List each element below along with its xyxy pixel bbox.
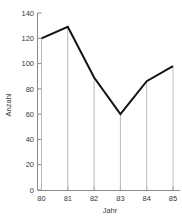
x-axis-ticks <box>42 187 174 191</box>
line-chart: 0 20 40 60 80 100 120 140 <box>0 0 182 224</box>
y-tick-label: 0 <box>30 186 34 195</box>
x-tick-label: 81 <box>64 194 72 203</box>
data-series-line <box>42 27 174 114</box>
y-tick-label: 100 <box>21 59 34 68</box>
x-axis-title: Jahr <box>103 206 118 215</box>
stem-lines <box>42 27 174 190</box>
y-axis-ticks <box>38 13 42 190</box>
y-tick-label: 140 <box>21 9 34 18</box>
chart-container: 0 20 40 60 80 100 120 140 <box>0 0 182 224</box>
x-tick-label: 84 <box>143 194 151 203</box>
x-tick-label: 85 <box>169 194 177 203</box>
y-tick-label: 20 <box>26 160 34 169</box>
y-tick-label: 40 <box>26 135 34 144</box>
x-tick-label: 82 <box>90 194 98 203</box>
y-tick-label: 120 <box>21 34 34 43</box>
x-tick-label: 83 <box>116 194 124 203</box>
x-axis-tick-labels: 80 81 82 83 84 85 <box>37 194 177 203</box>
y-axis-title: Anzahl <box>4 93 13 116</box>
y-tick-label: 60 <box>26 110 34 119</box>
y-axis-tick-labels: 0 20 40 60 80 100 120 140 <box>21 9 34 195</box>
y-tick-label: 80 <box>26 85 34 94</box>
x-tick-label: 80 <box>37 194 45 203</box>
